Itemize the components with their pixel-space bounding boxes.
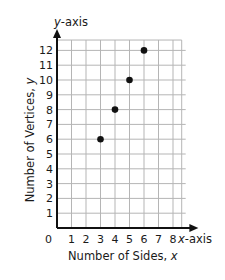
origin-label: 0	[45, 233, 52, 246]
y-tick-label: 12	[39, 44, 53, 57]
x-axis-name: x-axis	[177, 232, 212, 246]
x-axis-label: Number of Sides, x	[68, 249, 178, 263]
scatter-chart: 12345678 123456789101112 0 y-axis x-axis…	[0, 0, 225, 280]
x-tick-label: 5	[126, 233, 133, 246]
y-tick-label: 10	[39, 74, 53, 87]
y-tick-label: 7	[46, 118, 53, 131]
data-point	[141, 47, 148, 54]
y-tick-label: 2	[46, 192, 53, 205]
y-tick-label: 6	[46, 133, 53, 146]
x-tick-label: 3	[97, 233, 104, 246]
data-point	[126, 77, 133, 84]
y-axis-label: Number of Vertices, y	[23, 78, 37, 203]
y-tick-label: 11	[39, 59, 53, 72]
y-tick-label: 1	[46, 207, 53, 220]
y-axis-arrow-icon	[53, 29, 61, 38]
x-tick-label: 8	[170, 233, 177, 246]
x-axis-arrow-icon	[189, 224, 198, 232]
grid-lines	[57, 40, 186, 228]
x-tick-label: 4	[112, 233, 119, 246]
x-tick-labels: 12345678	[68, 233, 177, 246]
data-point	[112, 106, 119, 113]
y-tick-labels: 123456789101112	[39, 44, 53, 220]
axes	[53, 29, 198, 232]
data-point	[97, 136, 104, 143]
x-tick-label: 6	[141, 233, 148, 246]
x-tick-label: 1	[68, 233, 75, 246]
x-tick-label: 7	[155, 233, 162, 246]
y-tick-label: 4	[46, 163, 53, 176]
y-tick-label: 8	[46, 104, 53, 117]
y-tick-label: 5	[46, 148, 53, 161]
x-tick-label: 2	[83, 233, 90, 246]
y-axis-name: y-axis	[53, 15, 88, 29]
y-tick-label: 9	[46, 89, 53, 102]
y-tick-label: 3	[46, 178, 53, 191]
